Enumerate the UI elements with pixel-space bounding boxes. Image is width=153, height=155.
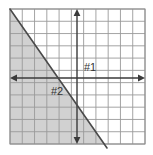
region-label-2: #2 — [51, 85, 63, 97]
inequality-graph-figure: #1 #2 — [0, 0, 153, 155]
graph-canvas: #1 #2 — [0, 0, 153, 155]
region-label-1: #1 — [84, 61, 96, 73]
